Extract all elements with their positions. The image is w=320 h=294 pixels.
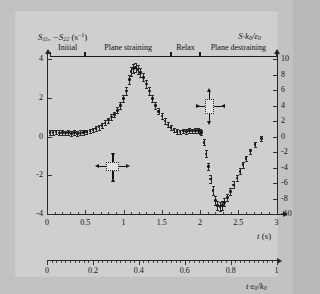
arrow-head: [196, 104, 200, 108]
secondary-minor-tick: [134, 261, 135, 263]
phase-segment: [50, 52, 85, 57]
right-tick-label: -2: [281, 147, 293, 156]
arrow-head: [221, 104, 225, 108]
plot-area: 420-2-4 1086420-2-4-6-8-10 00.511.522.53: [47, 59, 278, 215]
secondary-minor-tick: [98, 261, 99, 263]
data-point: [229, 190, 232, 193]
error-bar-cap: [151, 95, 154, 96]
secondary-minor-tick: [189, 261, 190, 263]
secondary-minor-tick: [176, 261, 177, 263]
error-bar-cap: [148, 87, 151, 88]
data-point: [151, 97, 154, 100]
right-axis-arrowhead: [274, 49, 280, 54]
secondary-minor-tick: [56, 261, 57, 263]
bottom-minor-tick: [139, 212, 140, 214]
secondary-minor-tick: [221, 261, 222, 263]
error-bar-cap: [226, 201, 229, 202]
error-bar-cap: [145, 80, 148, 81]
bottom-minor-tick: [108, 212, 109, 214]
data-point: [148, 90, 151, 93]
secondary-minor-tick: [107, 261, 108, 263]
phase-segment: [200, 52, 277, 57]
arrow-head: [207, 121, 211, 125]
element-box: [106, 162, 119, 171]
bottom-tick-label: 0: [35, 218, 59, 227]
error-bar-cap: [125, 87, 128, 88]
bottom-tick: [85, 210, 86, 214]
left-tick-label: 2: [23, 93, 43, 102]
secondary-axis: 00.20.40.60.81: [47, 260, 284, 280]
secondary-minor-tick: [267, 261, 268, 263]
data-point: [245, 157, 248, 160]
error-bar-cap: [229, 195, 232, 196]
plane-destraining-element: [189, 86, 229, 126]
secondary-minor-tick: [258, 261, 259, 263]
secondary-minor-tick: [65, 261, 66, 263]
secondary-tick-label: 1: [265, 266, 289, 275]
right-tick: [273, 90, 277, 91]
error-bar-cap: [128, 84, 131, 85]
arrow-head: [95, 164, 99, 168]
error-bar-cap: [209, 175, 212, 176]
secondary-tick: [277, 261, 278, 265]
data-point: [125, 90, 128, 93]
secondary-minor-tick: [162, 261, 163, 263]
right-tick-label: 8: [281, 70, 293, 79]
secondary-minor-tick: [249, 261, 250, 263]
error-bar-cap: [110, 120, 113, 121]
right-tick-label: -10: [281, 209, 293, 218]
right-tick: [273, 199, 277, 200]
bottom-minor-tick: [215, 212, 216, 214]
secondary-minor-tick: [166, 261, 167, 263]
data-point: [122, 97, 125, 100]
data-point: [254, 143, 257, 146]
secondary-tick: [93, 261, 94, 265]
error-bar-cap: [254, 147, 257, 148]
error-bar-cap: [212, 186, 215, 187]
secondary-minor-tick: [263, 261, 264, 263]
bottom-minor-tick: [131, 212, 132, 214]
secondary-tick: [47, 261, 48, 265]
bottom-minor-tick: [62, 212, 63, 214]
error-bar-cap: [89, 133, 92, 134]
data-point: [205, 153, 208, 156]
secondary-minor-tick: [254, 261, 255, 263]
right-tick: [273, 121, 277, 122]
secondary-minor-tick: [217, 261, 218, 263]
secondary-minor-tick: [235, 261, 236, 263]
error-bar-cap: [98, 130, 101, 131]
bottom-tick: [238, 210, 239, 214]
bottom-tick: [47, 210, 48, 214]
bottom-tick: [277, 210, 278, 214]
bottom-minor-tick: [192, 212, 193, 214]
secondary-minor-tick: [148, 261, 149, 263]
bottom-tick: [200, 210, 201, 214]
bottom-tick-label: 1.5: [150, 218, 174, 227]
left-tick-label: 4: [23, 54, 43, 63]
secondary-minor-tick: [143, 261, 144, 263]
bottom-minor-tick: [208, 212, 209, 214]
secondary-minor-tick: [116, 261, 117, 263]
error-bar-cap: [134, 63, 137, 64]
secondary-tick-label: 0.4: [127, 266, 151, 275]
error-bar-cap: [113, 117, 116, 118]
secondary-minor-tick: [70, 261, 71, 263]
data-point: [200, 131, 203, 134]
secondary-minor-tick: [199, 261, 200, 263]
right-tick: [273, 137, 277, 138]
secondary-minor-tick: [111, 261, 112, 263]
secondary-tick-label: 0.6: [173, 266, 197, 275]
error-bar-cap: [137, 65, 140, 66]
secondary-minor-tick: [153, 261, 154, 263]
error-bar-cap: [205, 157, 208, 158]
data-point: [242, 163, 245, 166]
error-bar-cap: [119, 109, 122, 110]
secondary-minor-tick: [272, 261, 273, 263]
left-tick: [48, 98, 52, 99]
data-point: [176, 130, 179, 133]
error-bar-cap: [95, 131, 98, 132]
right-axis-line: [277, 53, 278, 215]
bottom-minor-tick: [116, 212, 117, 214]
right-tick: [273, 214, 277, 215]
secondary-minor-tick: [120, 261, 121, 263]
